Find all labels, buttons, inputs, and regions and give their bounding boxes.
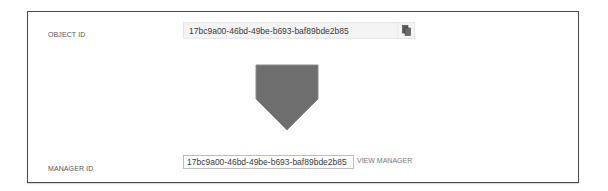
details-panel: OBJECT ID 17bc9a00-46bd-49be-b693-baf89b… bbox=[27, 11, 579, 183]
manager-id-input[interactable] bbox=[183, 155, 354, 169]
object-id-label: OBJECT ID bbox=[48, 31, 85, 38]
object-id-value: 17bc9a00-46bd-49be-b693-baf89bde2b85 bbox=[184, 26, 397, 36]
copy-object-id-button[interactable] bbox=[397, 23, 414, 38]
manager-id-label: MANAGER ID bbox=[48, 165, 93, 172]
pentagon-shape-icon bbox=[255, 64, 319, 131]
object-id-field: 17bc9a00-46bd-49be-b693-baf89bde2b85 bbox=[183, 22, 415, 39]
view-manager-link[interactable]: VIEW MANAGER bbox=[357, 157, 412, 164]
copy-icon bbox=[402, 25, 411, 36]
